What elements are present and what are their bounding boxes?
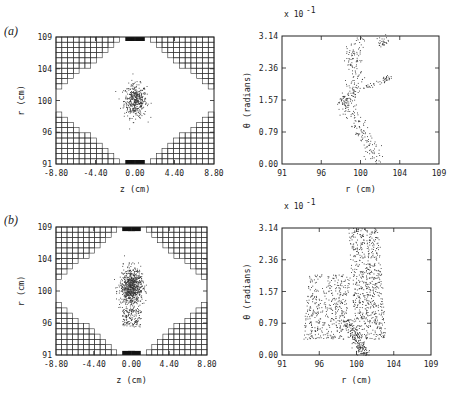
x-axis-label: r (cm) bbox=[345, 184, 376, 194]
y-tick-label: 1.57 bbox=[259, 288, 278, 297]
y-axis-label: r (cm) bbox=[16, 85, 26, 116]
figure-canvas: -8.80-4.400.004.408.801091041009691z (cm… bbox=[0, 0, 450, 398]
x-tick-label: -8.80 bbox=[44, 169, 68, 178]
y-axis-label: θ (radians) bbox=[242, 263, 252, 319]
x-tick-label: 100 bbox=[349, 360, 364, 369]
x-tick-label: 4.40 bbox=[165, 169, 184, 178]
x-tick-label: 100 bbox=[353, 169, 368, 178]
x-tick-label: 91 bbox=[277, 169, 287, 178]
y-tick-label: 0.79 bbox=[259, 128, 278, 137]
x-tick-label: 8.80 bbox=[197, 360, 216, 369]
y-tick-label: 96 bbox=[42, 319, 52, 328]
y-tick-label: 91 bbox=[42, 160, 52, 169]
y-tick-label: 96 bbox=[42, 128, 52, 137]
y-tick-label: 109 bbox=[38, 33, 53, 42]
plot-a-left: -8.80-4.400.004.408.801091041009691z (cm… bbox=[16, 33, 224, 194]
y-tick-label: 91 bbox=[42, 351, 52, 360]
y-tick-label: 3.14 bbox=[259, 224, 278, 233]
plot-frame bbox=[282, 36, 439, 164]
x-tick-label: 96 bbox=[314, 360, 324, 369]
x-tick-label: -8.80 bbox=[44, 360, 68, 369]
particle-cloud bbox=[114, 255, 147, 327]
y-axis-label: r (cm) bbox=[16, 276, 26, 307]
particle-cloud bbox=[115, 74, 151, 130]
y-tick-label: 1.57 bbox=[259, 96, 278, 105]
y-tick-label: 100 bbox=[38, 287, 53, 296]
x-tick-label: -4.40 bbox=[82, 360, 106, 369]
x-axis-label: z (cm) bbox=[120, 184, 151, 194]
scale-note: x 10 bbox=[284, 10, 303, 19]
scatter-points bbox=[304, 228, 386, 356]
scale-note-exponent: -1 bbox=[306, 6, 316, 15]
x-tick-label: 109 bbox=[424, 360, 439, 369]
x-tick-label: 91 bbox=[277, 360, 287, 369]
x-tick-label: 96 bbox=[316, 169, 326, 178]
plot-b-left: -8.80-4.400.004.408.801091041009691z (cm… bbox=[16, 223, 217, 385]
x-axis-label: z (cm) bbox=[116, 375, 147, 385]
x-tick-label: 0.00 bbox=[122, 360, 141, 369]
x-tick-label: -4.40 bbox=[83, 169, 107, 178]
x-tick-label: 4.40 bbox=[160, 360, 179, 369]
y-tick-label: 109 bbox=[38, 223, 53, 232]
y-tick-label: 2.36 bbox=[259, 256, 278, 265]
y-tick-label: 0.00 bbox=[259, 351, 278, 360]
plot-frame bbox=[282, 228, 431, 355]
y-tick-label: 2.36 bbox=[259, 64, 278, 73]
x-tick-label: 109 bbox=[432, 169, 447, 178]
plot-a-right: x 10-191961001041093.142.361.570.790.00r… bbox=[242, 6, 446, 194]
scale-note-exponent: -1 bbox=[306, 198, 316, 207]
x-tick-label: 104 bbox=[387, 360, 402, 369]
scatter-points bbox=[337, 34, 392, 163]
x-tick-label: 104 bbox=[393, 169, 408, 178]
scale-note: x 10 bbox=[284, 202, 303, 211]
y-tick-label: 0.79 bbox=[259, 319, 278, 328]
y-axis-label: θ (radians) bbox=[242, 72, 252, 128]
y-tick-label: 0.00 bbox=[259, 160, 278, 169]
plot-b-right: x 10-191961001041093.142.361.570.790.00r… bbox=[242, 198, 438, 385]
y-tick-label: 100 bbox=[38, 97, 53, 106]
x-tick-label: 8.80 bbox=[204, 169, 223, 178]
y-tick-label: 3.14 bbox=[259, 32, 278, 41]
y-tick-label: 104 bbox=[38, 65, 53, 74]
x-axis-label: r (cm) bbox=[341, 375, 372, 385]
x-tick-label: 0.00 bbox=[125, 169, 144, 178]
y-tick-label: 104 bbox=[38, 255, 53, 264]
